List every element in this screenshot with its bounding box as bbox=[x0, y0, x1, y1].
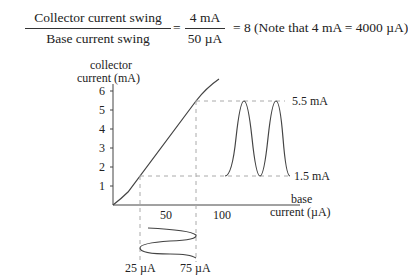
y-tick-6: 6 bbox=[99, 84, 105, 99]
x-tick-50: 50 bbox=[160, 208, 172, 223]
projection-guides bbox=[140, 101, 290, 262]
y-tick-3: 3 bbox=[99, 141, 105, 156]
output-waveform bbox=[225, 101, 290, 176]
input-waveform bbox=[140, 228, 196, 258]
output-max-label: 5.5 mA bbox=[292, 94, 328, 109]
y-tick-5: 5 bbox=[99, 103, 105, 118]
y-axis-label-line2: current (mA) bbox=[77, 71, 140, 86]
input-max-label: 75 µA bbox=[180, 261, 211, 275]
input-min-label: 25 µA bbox=[125, 261, 156, 275]
y-tick-1: 1 bbox=[99, 179, 105, 194]
transfer-curve bbox=[113, 79, 219, 205]
y-tick-4: 4 bbox=[99, 122, 105, 137]
output-min-label: 1.5 mA bbox=[294, 169, 330, 184]
x-axis-label-line2: current (µA) bbox=[270, 205, 331, 220]
y-tick-2: 2 bbox=[99, 160, 105, 175]
x-tick-100: 100 bbox=[213, 208, 231, 223]
